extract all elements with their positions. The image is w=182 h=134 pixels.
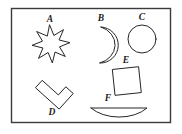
shape-label-e: E [122,55,129,65]
tilted-square-icon [113,67,142,96]
shape-label-d: D [48,107,56,117]
shape-label-c: C [139,12,146,22]
shapes-figure: A B C D E F [0,0,182,134]
circle-icon [128,25,156,53]
shape-label-b: B [97,13,104,23]
shape-label-f: F [104,93,112,103]
shape-label-a: A [46,14,53,24]
figure-canvas: A B C D E F [0,0,182,134]
